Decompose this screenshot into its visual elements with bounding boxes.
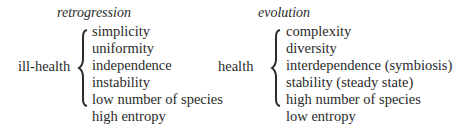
list-item: high number of species <box>286 91 452 108</box>
right-items: complexity diversity interdependence (sy… <box>286 23 452 125</box>
left-label: ill-health <box>18 58 70 75</box>
list-item: interdependence (symbiosis) <box>286 57 452 74</box>
right-heading: evolution <box>258 4 310 21</box>
right-brace-icon <box>270 29 282 107</box>
list-item: stability (steady state) <box>286 74 452 91</box>
list-item: complexity <box>286 23 452 40</box>
list-item: uniformity <box>92 40 223 57</box>
left-brace-icon <box>77 29 89 107</box>
list-item: instability <box>92 74 223 91</box>
left-items: simplicity uniformity independence insta… <box>92 23 223 125</box>
list-item: low number of species <box>92 91 223 108</box>
list-item: high entropy <box>92 108 223 125</box>
list-item: diversity <box>286 40 452 57</box>
right-label: health <box>218 58 253 75</box>
list-item: simplicity <box>92 23 223 40</box>
list-item: low entropy <box>286 108 452 125</box>
list-item: independence <box>92 57 223 74</box>
left-heading: retrogression <box>57 4 131 21</box>
